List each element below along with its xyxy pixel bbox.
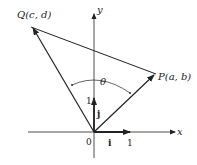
x-tick-1: 1 (127, 138, 133, 148)
unit-vector-i-label: i (108, 138, 112, 148)
angle-label: θ (100, 76, 106, 87)
point-Q-label: Q(c, d) (17, 9, 51, 20)
angle-arc-end-q (71, 84, 73, 86)
origin-label: 0 (86, 137, 92, 147)
y-tick-1: 1 (86, 96, 92, 106)
x-axis-label: x (177, 126, 183, 137)
unit-vector-j-label: j (96, 109, 100, 119)
angle-arc-end-p (129, 92, 131, 94)
y-axis-label: y (96, 4, 103, 15)
vector-diagram: y x 0 Q(c, d) P(a, b) θ i 1 j 1 (0, 0, 197, 165)
vector-OQ (33, 28, 94, 132)
point-P-label: P(a, b) (157, 71, 191, 82)
segment-QP (31, 27, 156, 74)
